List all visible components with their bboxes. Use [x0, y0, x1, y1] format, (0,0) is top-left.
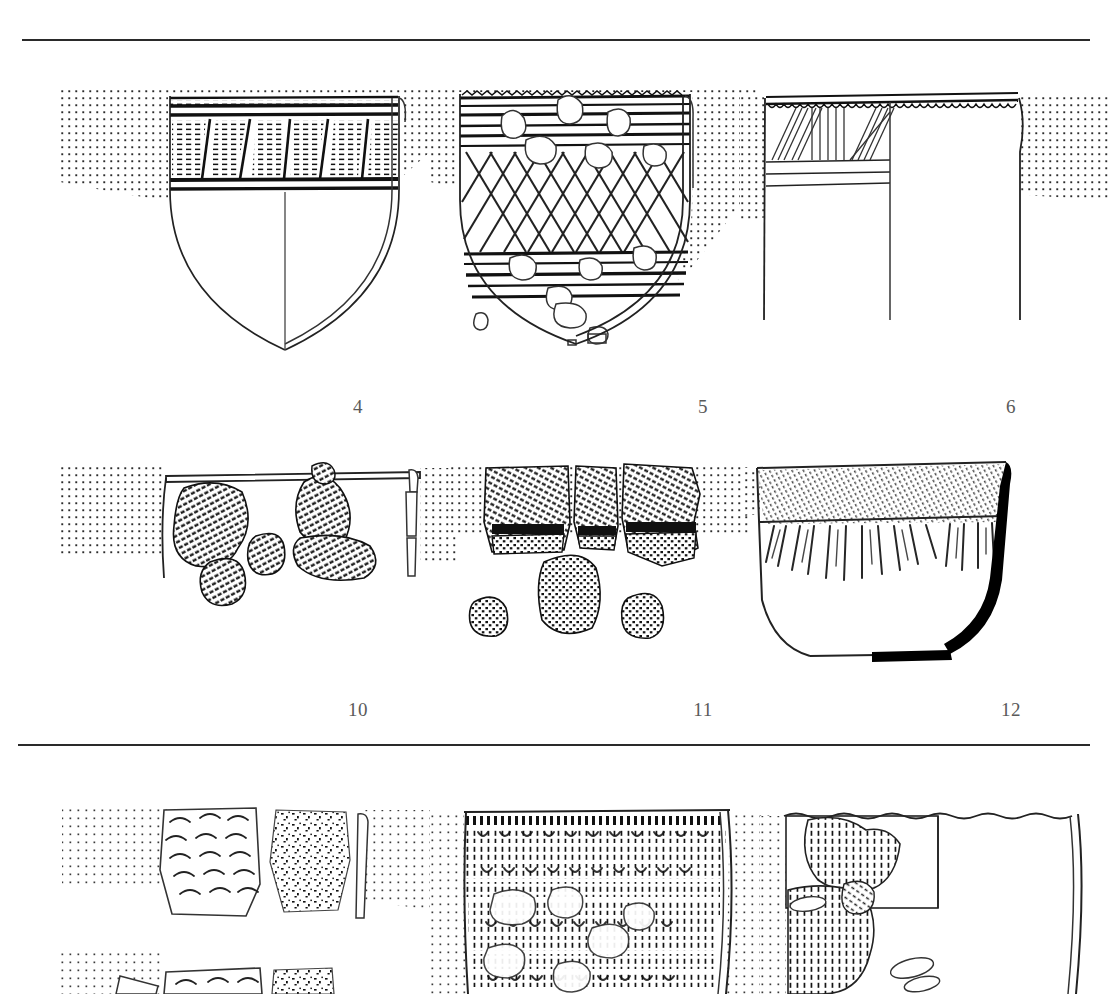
illustration-plate: 4	[0, 0, 1110, 994]
figure-label-12: 12	[991, 699, 1031, 721]
vessel-drawing-4	[60, 82, 430, 372]
speckled-sherd-bl-lower	[272, 968, 334, 994]
sherd-group-drawing-11	[450, 452, 750, 662]
sherd-fragments-11-upper	[484, 464, 700, 566]
sherd-fragments-10	[173, 463, 375, 606]
stipple-shadow-bm-left	[430, 812, 468, 994]
figure-label-5: 5	[683, 396, 723, 418]
hatched-patch-br	[842, 881, 874, 914]
vessel-body-fill-6	[764, 96, 1020, 322]
figure-label-11: 11	[683, 699, 723, 721]
section-base-12	[872, 650, 952, 662]
vessel-drawing-bottom-left	[60, 800, 430, 994]
sherd-fragments-11-lower	[470, 555, 664, 638]
rim-band-hatch-12	[758, 464, 1004, 524]
vessel-drawing-bottom-middle	[430, 798, 770, 994]
crescent-sherd-bl	[160, 808, 260, 916]
sherd-group-drawing-10	[60, 452, 460, 632]
figure-label-10: 10	[338, 699, 378, 721]
stipple-shadow-br	[760, 816, 786, 994]
stipple-shadow-bl-1	[62, 808, 172, 886]
figure-label-6: 6	[991, 396, 1031, 418]
middle-divider-rule	[18, 744, 1090, 746]
comb-stamped-rows-bm	[466, 816, 726, 992]
rim-section-profile-bl	[356, 814, 368, 918]
rim-section-profile-10	[406, 470, 418, 576]
figure-label-4: 4	[338, 396, 378, 418]
vessel-drawing-5	[430, 82, 760, 372]
stipple-shadow-10-left	[60, 464, 164, 556]
speckled-sherd-bl	[270, 810, 350, 912]
stipple-shadow-6-right	[1018, 96, 1110, 200]
stipple-shadow-bl-2	[360, 810, 430, 910]
vessel-drawing-6	[740, 82, 1110, 332]
vessel-drawing-12	[744, 450, 1044, 680]
vessel-drawing-bottom-right	[760, 798, 1110, 994]
top-divider-rule	[22, 39, 1090, 41]
